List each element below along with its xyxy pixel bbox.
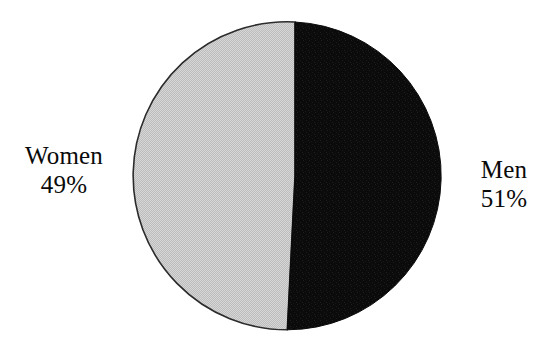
pie-label-men-name: Men xyxy=(473,155,535,184)
pie-label-women-value: 49% xyxy=(8,170,120,199)
pie-slice-women[interactable] xyxy=(133,22,295,330)
pie-svg xyxy=(141,22,449,330)
pie-label-men-value: 51% xyxy=(473,184,535,213)
pie-label-women: Women 49% xyxy=(8,141,120,199)
pie-chart-figure: Women 49% Men 51% xyxy=(0,0,547,343)
pie-slice-men[interactable] xyxy=(287,22,441,330)
pie-label-men: Men 51% xyxy=(473,155,535,213)
pie-chart-graphic xyxy=(141,22,449,330)
pie-label-women-name: Women xyxy=(8,141,120,170)
